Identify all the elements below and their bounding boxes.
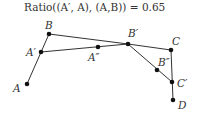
- point-label-C1: C′: [177, 77, 188, 89]
- point-A: [25, 82, 30, 87]
- point-label-A2: A″: [87, 51, 100, 63]
- point-B: [47, 32, 52, 37]
- point-label-D: D: [177, 99, 187, 111]
- segment-A1-B1: [41, 44, 128, 52]
- point-label-A: A: [12, 82, 21, 94]
- point-label-B: B: [44, 19, 53, 31]
- segment-B-B1: [49, 34, 128, 44]
- point-A2: [96, 45, 101, 50]
- segment-A-B: [27, 34, 49, 84]
- segment-C-D: [171, 50, 173, 100]
- point-label-A1: A′: [25, 46, 37, 58]
- point-label-B1: B′: [127, 27, 139, 39]
- point-A1: [39, 50, 44, 55]
- point-B2: [155, 68, 160, 73]
- geometry-figure: BA′AA″B′CB″C′D: [0, 0, 200, 118]
- point-D: [171, 98, 176, 103]
- point-C1: [170, 80, 175, 85]
- point-label-B2: B″: [157, 56, 170, 68]
- point-label-C: C: [172, 35, 180, 47]
- point-B1: [126, 42, 131, 47]
- point-C: [169, 48, 174, 53]
